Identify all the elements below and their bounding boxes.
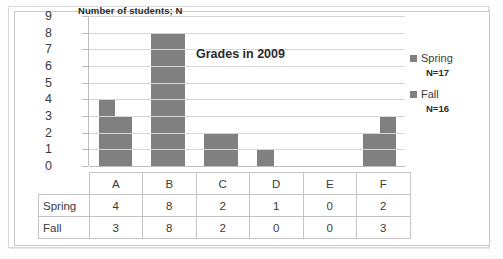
gridline-3 — [89, 116, 405, 117]
table-cell-spring-B: 8 — [143, 195, 197, 217]
y-axis-tick-1: 1 — [45, 143, 52, 156]
legend-swatch-icon — [410, 91, 417, 98]
table-header-A: A — [89, 173, 143, 195]
y-axis-tick-3: 3 — [45, 110, 52, 123]
table-cell-spring-A: 4 — [89, 195, 143, 217]
legend-label: Spring — [421, 52, 453, 64]
legend-swatch-icon — [410, 55, 417, 62]
axis-tick-mark-1 — [82, 149, 88, 150]
table-cell-fall-C: 2 — [196, 217, 250, 239]
table-corner-cell — [39, 173, 90, 195]
axis-inline-title: Number of students; N — [78, 5, 183, 16]
bar-fall-F — [380, 116, 397, 166]
legend-row: Spring — [410, 52, 480, 64]
y-axis-tick-0: 0 — [45, 160, 52, 173]
axis-tick-mark-2 — [82, 133, 88, 134]
table-row-label-spring: Spring — [39, 195, 90, 217]
table-cell-spring-E: 0 — [303, 195, 357, 217]
axis-tick-mark-5 — [82, 83, 88, 84]
axis-tick-mark-4 — [82, 99, 88, 100]
axis-tick-mark-6 — [82, 66, 88, 67]
bar-group-C — [204, 16, 238, 166]
table-header-row: ABCDEF — [39, 173, 411, 195]
gridline-9 — [89, 16, 405, 17]
gridline-5 — [89, 83, 405, 84]
bar-group-D — [257, 16, 291, 166]
plot-area — [88, 16, 405, 166]
y-axis-tick-4: 4 — [45, 93, 52, 106]
table-header-B: B — [143, 173, 197, 195]
legend-count-fall: N=16 — [426, 103, 480, 114]
legend-entry-spring[interactable]: SpringN=17 — [410, 52, 480, 78]
y-axis-tick-8: 8 — [45, 26, 52, 39]
chart-screenshot: 9876543210 Number of students; N Grades … — [0, 0, 503, 259]
table-header-E: E — [303, 173, 357, 195]
table-cell-fall-D: 0 — [250, 217, 304, 239]
axis-tick-mark-9 — [82, 16, 88, 17]
table-cell-spring-F: 2 — [357, 195, 411, 217]
gridline-8 — [89, 33, 405, 34]
axis-tick-mark-0 — [82, 166, 88, 167]
gridline-1 — [89, 149, 405, 150]
table-row: Fall382003 — [39, 217, 411, 239]
chart-legend: SpringN=17FallN=16 — [410, 52, 480, 124]
y-axis-tick-7: 7 — [45, 43, 52, 56]
table-row-label-fall: Fall — [39, 217, 90, 239]
chart-title: Grades in 2009 — [196, 47, 285, 61]
table-cell-fall-A: 3 — [89, 217, 143, 239]
y-axis-labels: 9876543210 — [20, 16, 56, 178]
bar-fall-A — [115, 116, 132, 166]
table-cell-fall-F: 3 — [357, 217, 411, 239]
data-table: ABCDEFSpring482102Fall382003 — [38, 172, 411, 239]
table-header-F: F — [357, 173, 411, 195]
y-axis-tick-2: 2 — [45, 126, 52, 139]
gridline-6 — [89, 66, 405, 67]
table-row: Spring482102 — [39, 195, 411, 217]
gridline-2 — [89, 133, 405, 134]
bar-spring-D — [257, 149, 274, 166]
gridline-0 — [89, 166, 405, 167]
plot-wrapper: 9876543210 — [20, 16, 405, 178]
gridline-4 — [89, 99, 405, 100]
legend-label: Fall — [421, 88, 439, 100]
table-cell-spring-D: 1 — [250, 195, 304, 217]
table-header-D: D — [250, 173, 304, 195]
y-axis-tick-6: 6 — [45, 60, 52, 73]
axis-tick-mark-3 — [82, 116, 88, 117]
y-axis-tick-9: 9 — [45, 10, 52, 23]
bar-group-E — [310, 16, 344, 166]
table-cell-spring-C: 2 — [196, 195, 250, 217]
table-cell-fall-B: 8 — [143, 217, 197, 239]
bar-group-F — [363, 16, 397, 166]
axis-tick-mark-8 — [82, 33, 88, 34]
bar-group-A — [99, 16, 133, 166]
bars-layer — [89, 16, 405, 166]
axis-tick-mark-7 — [82, 49, 88, 50]
legend-entry-fall[interactable]: FallN=16 — [410, 88, 480, 114]
bar-group-B — [151, 16, 185, 166]
legend-row: Fall — [410, 88, 480, 100]
legend-count-spring: N=17 — [426, 67, 480, 78]
table-cell-fall-E: 0 — [303, 217, 357, 239]
table-header-C: C — [196, 173, 250, 195]
y-axis-tick-5: 5 — [45, 76, 52, 89]
